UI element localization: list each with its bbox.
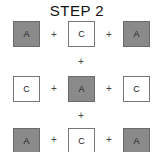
plus-sign: + [104,29,114,40]
plus-sign: + [49,134,59,145]
cell-label: C [133,84,140,94]
cell-r2c3: C [123,76,150,102]
plus-sign: + [49,83,59,94]
cell-r1c1: A [13,21,40,47]
cell-r3c3: A [123,128,150,152]
cell-label: A [133,136,139,146]
plus-sign: + [104,134,114,145]
cell-label: A [23,29,29,39]
cell-r1c2: C [68,21,95,47]
cell-r2c2: A [68,76,95,102]
plus-sign: + [49,29,59,40]
cell-r3c2: C [68,128,95,152]
cell-label: A [133,29,139,39]
plus-sign: + [76,110,86,121]
plus-sign: + [76,56,86,67]
cell-label: C [23,84,30,94]
cell-r1c3: A [123,21,150,47]
cell-r3c1: A [13,128,40,152]
cell-label: A [78,84,84,94]
cell-label: A [23,136,29,146]
cell-label: C [78,136,85,146]
plus-sign: + [104,83,114,94]
cell-r2c1: C [13,76,40,102]
cell-label: C [78,29,85,39]
step-title: STEP 2 [0,2,154,19]
